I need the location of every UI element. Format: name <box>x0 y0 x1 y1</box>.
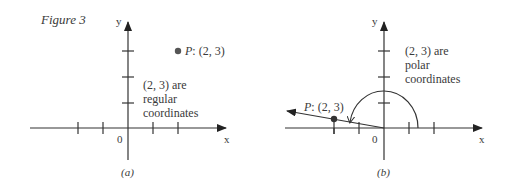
point-p-b <box>331 116 337 122</box>
point-label-a: P: (2, 3) <box>185 44 225 58</box>
y-axis-label-a: y <box>116 14 122 28</box>
note-b: (2, 3) are polar coordinates <box>405 44 460 86</box>
origin-label-b: 0 <box>372 132 378 146</box>
point-p-a <box>175 48 181 54</box>
x-axis-label-b: x <box>479 132 485 146</box>
caption-b: (b) <box>377 165 390 179</box>
x-axis-label-a: x <box>224 132 230 146</box>
point-label-b: P: (2, 3) <box>304 100 344 114</box>
figure-canvas <box>0 0 511 190</box>
figure-title: Figure 3 <box>41 13 86 27</box>
panel-b-axes <box>285 22 482 160</box>
origin-label-a: 0 <box>117 132 123 146</box>
note-a: (2, 3) are regular coordinates <box>143 78 198 120</box>
y-axis-label-b: y <box>372 14 378 28</box>
caption-a: (a) <box>121 165 134 179</box>
